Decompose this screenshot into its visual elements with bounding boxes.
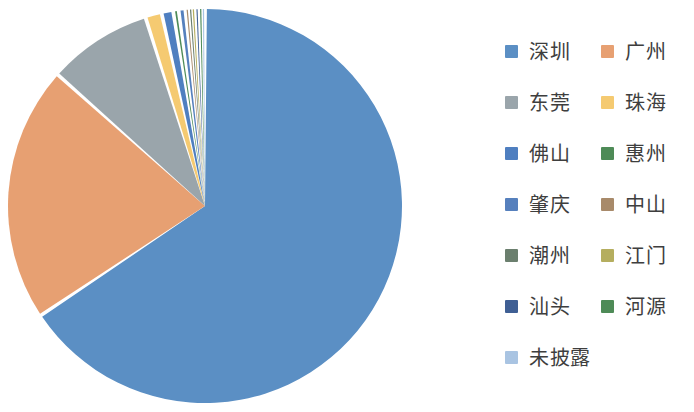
legend-item-佛山[interactable]: 佛山 (505, 128, 601, 179)
legend-item-珠海[interactable]: 珠海 (601, 77, 694, 128)
legend-swatch-icon (505, 147, 518, 160)
legend-item-河源[interactable]: 河源 (601, 281, 694, 332)
legend-swatch-icon (505, 96, 518, 109)
legend-item-label: 珠海 (625, 92, 666, 114)
legend-item-label: 未披露 (529, 347, 591, 369)
legend-item-label: 肇庆 (529, 194, 570, 216)
legend-item-广州[interactable]: 广州 (601, 26, 694, 77)
legend-item-label: 江门 (625, 245, 666, 267)
legend-item-label: 惠州 (625, 143, 666, 165)
legend-swatch-icon (505, 45, 518, 58)
legend-swatch-icon (601, 147, 614, 160)
pie-plot-area (0, 0, 430, 412)
legend-swatch-icon (601, 300, 614, 313)
pie-chart-figure: 深圳广州东莞珠海佛山惠州肇庆中山潮州江门汕头河源未披露 (0, 0, 694, 412)
legend-item-label: 河源 (625, 296, 666, 318)
legend-item-肇庆[interactable]: 肇庆 (505, 179, 601, 230)
legend-item-label: 东莞 (529, 92, 570, 114)
legend-swatch-icon (601, 249, 614, 262)
legend-grid: 深圳广州东莞珠海佛山惠州肇庆中山潮州江门汕头河源未披露 (505, 26, 694, 383)
legend-swatch-icon (601, 96, 614, 109)
legend-item-潮州[interactable]: 潮州 (505, 230, 601, 281)
legend-item-label: 汕头 (529, 296, 570, 318)
legend-item-label: 中山 (625, 194, 666, 216)
legend-swatch-icon (505, 198, 518, 211)
chart-legend: 深圳广州东莞珠海佛山惠州肇庆中山潮州江门汕头河源未披露 (505, 26, 694, 386)
legend-swatch-icon (601, 45, 614, 58)
legend-item-汕头[interactable]: 汕头 (505, 281, 601, 332)
legend-swatch-icon (505, 249, 518, 262)
legend-item-中山[interactable]: 中山 (601, 179, 694, 230)
legend-item-label: 潮州 (529, 245, 570, 267)
legend-item-深圳[interactable]: 深圳 (505, 26, 601, 77)
legend-swatch-icon (601, 198, 614, 211)
legend-swatch-icon (505, 300, 518, 313)
legend-item-江门[interactable]: 江门 (601, 230, 694, 281)
legend-swatch-icon (505, 351, 518, 364)
legend-item-label: 深圳 (529, 41, 570, 63)
legend-item-label: 广州 (625, 41, 666, 63)
legend-item-未披露[interactable]: 未披露 (505, 332, 601, 383)
pie-svg (0, 0, 430, 412)
legend-item-东莞[interactable]: 东莞 (505, 77, 601, 128)
legend-item-惠州[interactable]: 惠州 (601, 128, 694, 179)
legend-item-label: 佛山 (529, 143, 570, 165)
